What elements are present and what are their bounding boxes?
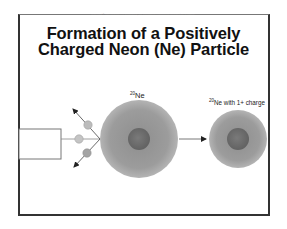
neon-atom-symbol: Ne — [135, 91, 145, 100]
neon-ion-nucleus — [227, 128, 249, 150]
electron-source-box — [19, 129, 61, 159]
electron-lower — [83, 149, 91, 157]
neon-ion-charge-text: with 1+ charge — [222, 99, 265, 106]
electron-upper — [84, 121, 92, 129]
neon-atom-label: 20Ne — [130, 90, 145, 100]
electron-middle — [75, 135, 83, 143]
neon-ion-label: 20Ne with 1+ charge — [209, 97, 265, 107]
neon-ion-symbol: Ne — [214, 99, 222, 106]
neon-ionization-diagram — [0, 0, 287, 229]
neon-atom-nucleus — [128, 128, 150, 150]
